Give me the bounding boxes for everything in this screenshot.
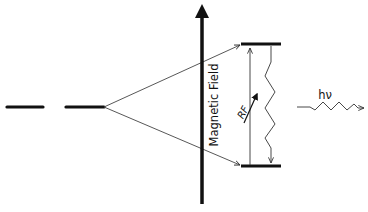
wavy-down-arrow	[265, 46, 275, 163]
relaxation-transition	[265, 46, 275, 163]
axis-label: Magnetic Field	[207, 64, 221, 147]
rf-label: RF	[235, 104, 251, 121]
axis-arrowhead-icon	[195, 4, 209, 18]
photon-wavy-arrow	[297, 102, 364, 110]
split-levels	[241, 44, 281, 166]
rf-transition: RF	[235, 48, 257, 165]
photon-emission: hν	[297, 88, 364, 110]
photon-label: hν	[318, 88, 332, 102]
zeeman-diagram: Magnetic Field RF hν	[0, 0, 368, 212]
magnetic-field-axis: Magnetic Field	[195, 4, 221, 204]
